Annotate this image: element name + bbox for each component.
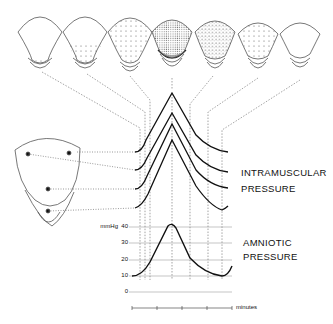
intramuscular-curves [135,93,228,210]
amniotic-label-line2: PRESSURE [243,251,298,262]
intramuscular-label-line2: PRESSURE [241,183,327,194]
diagram-canvas [0,0,333,324]
uterus-shape-3 [108,18,152,71]
intramuscular-label-line1: INTRAMUSCULAR [241,167,327,178]
y-tick-0: 0 [116,288,128,294]
uterus-shape-7 [280,23,320,67]
left-uterus [15,138,80,226]
uterus-shape-5 [195,21,235,68]
time-axis [132,306,232,310]
recording-site-2 [67,151,71,155]
uterus-shape-1 [18,17,62,68]
y-tick-20: 20 [116,256,128,262]
uterus-shape-6 [238,23,278,68]
left-connectors [28,152,135,211]
time-axis-label: minutes [236,304,257,310]
y-tick-10: 10 [116,272,128,278]
y-tick-40: 40 [116,223,128,229]
amniotic-label: AMNIOTIC PRESSURE [243,237,298,263]
uterus-shape-2 [63,17,107,68]
amniotic-label-line1: AMNIOTIC [243,237,298,248]
amniotic-pressure-curve [132,224,232,276]
top-row-uterus-shapes [18,17,320,71]
intramuscular-label: INTRAMUSCULAR PRESSURE [241,167,327,195]
y-tick-30: 30 [116,239,128,245]
uterus-shape-4-peak [152,20,192,66]
